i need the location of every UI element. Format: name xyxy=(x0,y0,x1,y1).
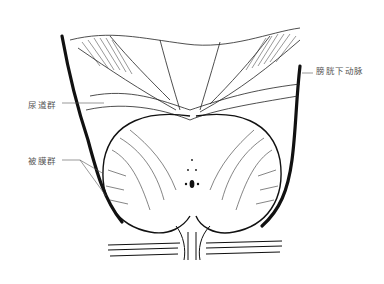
hatching-upper xyxy=(82,34,296,74)
bladder-base-fan xyxy=(70,28,300,120)
urethra-center xyxy=(185,159,199,188)
label-inferior-vesical-artery: 膀胱下动脉 xyxy=(316,64,364,76)
prostate-lobes xyxy=(103,114,281,233)
capsular-vessels xyxy=(106,130,278,210)
anatomy-illustration xyxy=(0,0,384,284)
urethra-stem xyxy=(176,226,210,260)
label-capsular-group: 被膜群 xyxy=(28,154,57,166)
label-urethral-group: 尿道群 xyxy=(28,98,57,110)
pelvic-floor xyxy=(108,241,282,256)
outer-artery-left xyxy=(62,36,122,222)
outer-artery-right xyxy=(262,66,300,226)
